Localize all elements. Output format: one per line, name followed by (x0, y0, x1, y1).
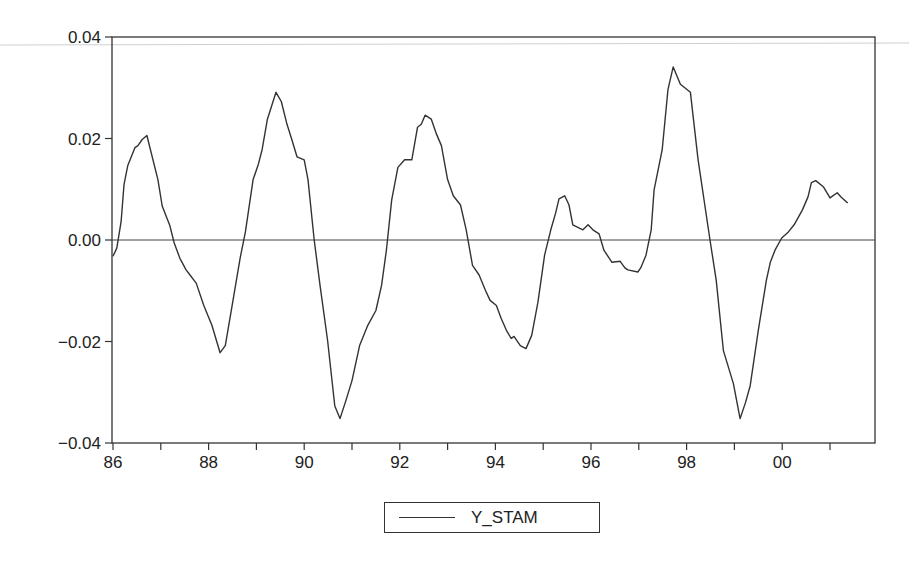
x-tick-label: 98 (677, 453, 696, 472)
x-tick-label: 86 (104, 453, 123, 472)
x-tick-label: 96 (582, 453, 601, 472)
x-tick-label: 88 (199, 453, 218, 472)
series-line-y-stam (113, 67, 848, 419)
legend-line-swatch (399, 517, 455, 518)
line-chart: 0.040.020.00−0.02−0.04 8688909294969800 (0, 0, 909, 563)
x-tick-label: 92 (390, 453, 409, 472)
legend: Y_STAM (384, 502, 600, 533)
x-tick-label: 00 (773, 453, 792, 472)
x-tick-label: 90 (295, 453, 314, 472)
y-axis: 0.040.020.00−0.02−0.04 (58, 28, 112, 453)
y-tick-label: −0.04 (58, 434, 101, 453)
x-tick-label: 94 (486, 453, 505, 472)
y-tick-label: −0.02 (58, 333, 101, 352)
legend-label: Y_STAM (471, 508, 538, 528)
x-axis: 8688909294969800 (104, 443, 830, 472)
y-tick-label: 0.04 (68, 28, 101, 47)
y-tick-label: 0.02 (68, 130, 101, 149)
scan-artifact-line (0, 43, 909, 45)
y-tick-label: 0.00 (68, 231, 101, 250)
